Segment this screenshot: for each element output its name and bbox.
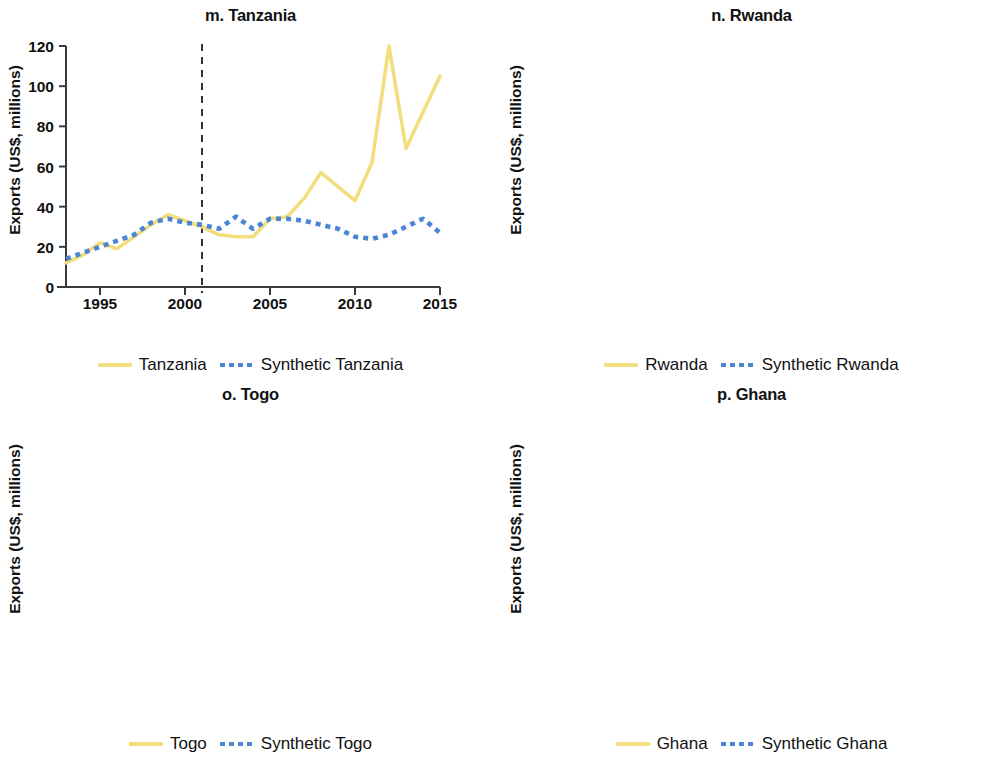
solid-line-swatch-icon [616,742,650,746]
dotted-line-swatch-icon [220,363,254,367]
legend-entry-treated: Tanzania [98,356,207,373]
legend-entry-synthetic: Synthetic Tanzania [220,356,403,373]
x-tick-label: 2010 [338,295,372,312]
solid-line-swatch-icon [98,363,132,367]
panel-ghana: p. Ghana Exports (US$, millions) 0100200… [501,379,1002,758]
legend-label-synthetic: Synthetic Ghana [762,735,888,752]
dotted-line-swatch-icon [220,742,254,746]
y-tick-label: 40 [37,199,54,216]
dotted-line-swatch-icon [721,742,755,746]
legend-label-treated: Togo [170,735,207,752]
legend-label-synthetic: Synthetic Tanzania [261,356,403,373]
figure-panel-grid: m. Tanzania Exports (US$, millions) 0204… [0,0,1002,758]
panel-tanzania: m. Tanzania Exports (US$, millions) 0204… [0,0,501,379]
x-tick-label: 2000 [168,295,202,312]
y-tick-label: 100 [28,78,54,95]
legend: Togo Synthetic Togo [0,735,501,752]
x-tick-label: 2005 [253,295,288,312]
legend-label-treated: Ghana [657,735,708,752]
legend-entry-treated: Ghana [616,735,708,752]
legend: Rwanda Synthetic Rwanda [501,356,1002,373]
y-tick-label: 0 [45,279,54,296]
dotted-line-swatch-icon [721,363,755,367]
legend-entry-synthetic: Synthetic Rwanda [721,356,899,373]
legend: Tanzania Synthetic Tanzania [0,356,501,373]
solid-line-swatch-icon [604,363,638,367]
x-tick-label: 1995 [83,295,118,312]
legend-label-synthetic: Synthetic Rwanda [762,356,899,373]
plot-area: 01020304019952000200520102015 [0,379,501,758]
legend-label-treated: Rwanda [645,356,707,373]
y-tick-label: 120 [28,38,54,55]
legend-entry-treated: Togo [129,735,207,752]
legend-label-synthetic: Synthetic Togo [261,735,372,752]
legend-entry-synthetic: Synthetic Togo [220,735,372,752]
x-tick-label: 2015 [423,295,458,312]
plot-area: 010020030040050060019952000200520102015 [501,379,1002,758]
y-tick-label: 20 [37,239,54,256]
legend-entry-treated: Rwanda [604,356,707,373]
plot-area: 01020304019952000200520102015 [501,0,1002,379]
legend-label-treated: Tanzania [139,356,207,373]
panel-togo: o. Togo Exports (US$, millions) 01020304… [0,379,501,758]
solid-line-swatch-icon [129,742,163,746]
legend-entry-synthetic: Synthetic Ghana [721,735,888,752]
legend: Ghana Synthetic Ghana [501,735,1002,752]
y-tick-label: 60 [37,159,54,176]
y-tick-label: 80 [37,118,54,135]
panel-rwanda: n. Rwanda Exports (US$, millions) 010203… [501,0,1002,379]
plot-area: 02040608010012019952000200520102015 [0,0,501,379]
